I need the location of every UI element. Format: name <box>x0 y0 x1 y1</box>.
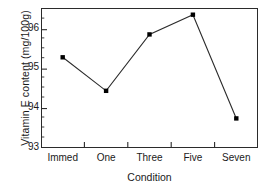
x-tick-label-one: One <box>84 153 127 163</box>
plot-canvas <box>41 8 258 148</box>
y-tick-label-95: 95 <box>19 62 39 72</box>
x-axis-title: Condition <box>41 171 258 183</box>
y-tick-label-94: 94 <box>19 102 39 112</box>
y-tick-label-96: 96 <box>19 23 39 33</box>
x-tick-label-seven: Seven <box>215 153 258 163</box>
x-tick-label-three: Three <box>128 153 171 163</box>
y-axis-tick-labels: 96 95 94 93 <box>17 0 39 196</box>
x-tick-label-five: Five <box>171 153 214 163</box>
x-tick-label-immed: Immed <box>41 153 84 163</box>
data-point-three <box>147 32 151 36</box>
data-point-one <box>104 89 108 93</box>
x-axis-ticks <box>84 142 214 148</box>
y-axis-minor-ticks <box>41 18 44 137</box>
chart-figure: Vitamin E content (mg/100g) 96 95 94 93 <box>0 0 273 196</box>
data-point-five <box>191 13 195 17</box>
data-point-seven <box>234 116 238 120</box>
data-series-line <box>63 15 237 119</box>
data-point-immed <box>61 55 65 59</box>
y-tick-label-93: 93 <box>19 142 39 152</box>
data-point-markers <box>61 13 239 121</box>
